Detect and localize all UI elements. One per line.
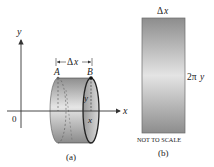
rect-height-var: y bbox=[199, 72, 205, 82]
panel-a: y x 0 A B y x Δ bbox=[7, 26, 128, 162]
diagram-canvas: y x 0 A B y x Δ bbox=[0, 0, 214, 167]
x-axis-label: x bbox=[122, 105, 128, 116]
caption-a: (a) bbox=[66, 152, 76, 162]
not-to-scale-note: NOT TO SCALE bbox=[137, 136, 181, 143]
position-label: x bbox=[87, 115, 92, 125]
width-label-x: x bbox=[73, 57, 79, 67]
origin-label: 0 bbox=[12, 114, 17, 124]
panel-b: Δ x 2π y NOT TO SCALE (b) bbox=[137, 6, 205, 158]
rect-width-delta: Δ bbox=[157, 6, 163, 16]
caption-b: (b) bbox=[158, 148, 169, 158]
rect-width-x: x bbox=[163, 6, 169, 16]
width-marker: Δ x bbox=[56, 57, 92, 67]
point-a-label: A bbox=[53, 67, 60, 77]
point-a bbox=[57, 77, 60, 80]
rect-height-prefix: 2π bbox=[187, 72, 197, 82]
width-label-delta: Δ bbox=[67, 57, 73, 67]
unrolled-rectangle bbox=[142, 18, 185, 133]
radius-label: y bbox=[83, 93, 88, 103]
y-axis-label: y bbox=[16, 26, 22, 37]
point-b-label: B bbox=[87, 67, 93, 77]
